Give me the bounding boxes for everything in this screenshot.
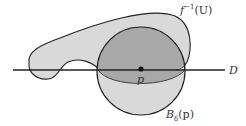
diagram-svg (0, 0, 246, 126)
line-label: D (229, 65, 238, 76)
point-p (138, 66, 143, 71)
ball-label: Bδ(p) (166, 109, 194, 123)
preimage-label: f−1(U) (180, 4, 212, 16)
figure: f−1(U) p D Bδ(p) (0, 0, 246, 126)
point-label: p (137, 74, 144, 85)
